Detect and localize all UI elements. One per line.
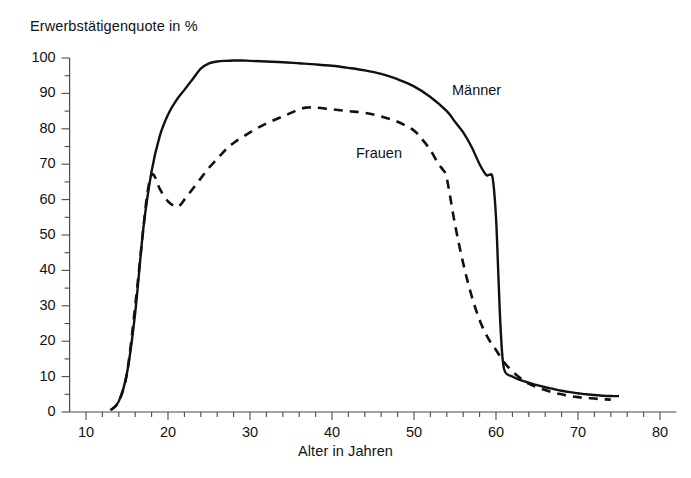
x-tick-label: 20 <box>148 424 188 440</box>
x-tick-label: 60 <box>476 424 516 440</box>
plot-area <box>0 0 691 478</box>
x-tick-label: 40 <box>312 424 352 440</box>
chart-container: Erwerbstätigenquote in % Alter in Jahren… <box>0 0 691 478</box>
x-tick-label: 70 <box>558 424 598 440</box>
x-tick-label: 80 <box>640 424 680 440</box>
series-label-maenner: Männer <box>452 82 501 98</box>
y-tick-label: 20 <box>16 332 56 348</box>
x-tick-label: 10 <box>66 424 106 440</box>
y-tick-label: 0 <box>16 403 56 419</box>
y-tick-label: 40 <box>16 261 56 277</box>
x-tick-label: 30 <box>230 424 270 440</box>
y-tick-label: 100 <box>16 49 56 65</box>
y-tick-label: 50 <box>16 226 56 242</box>
y-tick-label: 60 <box>16 191 56 207</box>
series-group <box>111 60 619 410</box>
y-axis-title: Erwerbstätigenquote in % <box>30 18 198 34</box>
y-tick-label: 90 <box>16 84 56 100</box>
y-tick-label: 70 <box>16 155 56 171</box>
y-tick-label: 30 <box>16 297 56 313</box>
y-tick-label: 80 <box>16 120 56 136</box>
x-tick-label: 50 <box>394 424 434 440</box>
x-axis-title: Alter in Jahren <box>0 443 691 459</box>
series-label-frauen: Frauen <box>356 145 402 161</box>
y-tick-label: 10 <box>16 368 56 384</box>
series-line-männer <box>111 60 619 410</box>
